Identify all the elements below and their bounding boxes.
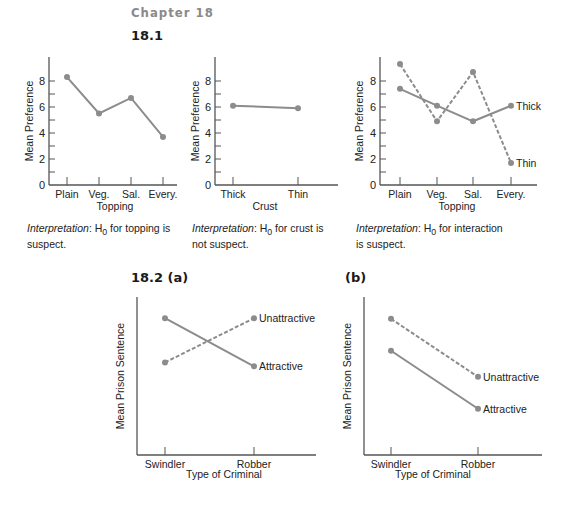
y-axis-label: Mean Prison Sentence — [114, 323, 126, 429]
series-label: Thick — [516, 100, 542, 112]
y-tick-label: 8 — [205, 75, 211, 87]
y-tick-label: 0 — [370, 179, 376, 191]
x-tick-label: Thick — [220, 188, 246, 200]
y-tick-label: 4 — [205, 127, 211, 139]
data-point — [475, 374, 481, 380]
series-label: Unattractive — [259, 312, 315, 324]
x-tick-label: Plain — [55, 188, 79, 200]
y-tick-label: 6 — [205, 101, 211, 113]
x-tick-label: Sal. — [122, 188, 140, 200]
data-point — [388, 316, 394, 322]
y-tick-label: 0 — [205, 179, 211, 191]
x-tick-label: Sal. — [464, 188, 482, 200]
y-axis-label: Mean Prison Sentence — [341, 323, 353, 429]
y-tick-label: 2 — [205, 153, 211, 165]
series-label: Unattractive — [483, 371, 539, 383]
data-point — [251, 363, 257, 369]
chart-18-2b: SwindlerRobberType of CriminalMean Priso… — [341, 297, 542, 480]
series-line — [67, 77, 163, 137]
y-tick-label: 6 — [39, 101, 45, 113]
series-line — [400, 89, 511, 122]
chart-crust: 02468ThickThinCrustMean Preference — [189, 57, 338, 212]
data-point — [508, 103, 514, 109]
y-tick-label: 2 — [370, 153, 376, 165]
data-point — [475, 406, 481, 412]
data-point — [64, 74, 70, 80]
x-tick-label: Swindler — [145, 458, 186, 470]
series-line — [391, 351, 478, 409]
x-tick-label: Thin — [288, 188, 309, 200]
data-point — [508, 160, 514, 166]
data-point — [96, 111, 102, 117]
data-point — [388, 348, 394, 354]
x-tick-label: Plain — [388, 188, 412, 200]
series-line — [233, 106, 298, 109]
data-point — [251, 315, 257, 321]
data-point — [160, 134, 166, 140]
x-tick-label: Veg. — [88, 188, 109, 200]
charts-canvas: 02468PlainVeg.Sal.Every.ToppingMean Pref… — [0, 0, 573, 512]
x-axis-label: Crust — [252, 200, 277, 212]
y-tick-label: 8 — [39, 75, 45, 87]
y-tick-label: 4 — [370, 127, 376, 139]
y-axis-label: Mean Preference — [353, 81, 365, 162]
x-axis-label: Type of Criminal — [395, 468, 471, 480]
x-tick-label: Every. — [497, 188, 526, 200]
series-label: Attractive — [483, 403, 527, 415]
y-tick-label: 4 — [39, 127, 45, 139]
chart-topping: 02468PlainVeg.Sal.Every.ToppingMean Pref… — [23, 57, 177, 212]
x-tick-label: Every. — [149, 188, 178, 200]
data-point — [434, 118, 440, 124]
y-tick-label: 8 — [370, 75, 376, 87]
data-point — [295, 105, 301, 111]
data-point — [434, 103, 440, 109]
x-axis-label: Topping — [97, 200, 134, 212]
y-tick-label: 6 — [370, 101, 376, 113]
data-point — [128, 95, 134, 101]
data-point — [162, 315, 168, 321]
chart-18-2a: SwindlerRobberType of CriminalMean Priso… — [114, 297, 316, 480]
x-tick-label: Veg. — [426, 188, 447, 200]
series-line — [391, 319, 478, 377]
series-label: Attractive — [259, 360, 303, 372]
y-tick-label: 2 — [39, 153, 45, 165]
data-point — [470, 118, 476, 124]
y-axis-label: Mean Preference — [23, 81, 35, 162]
data-point — [397, 61, 403, 67]
data-point — [230, 103, 236, 109]
data-point — [162, 359, 168, 365]
y-axis-label: Mean Preference — [189, 81, 201, 162]
x-axis-label: Topping — [439, 200, 476, 212]
x-axis-label: Type of Criminal — [186, 468, 262, 480]
y-tick-label: 0 — [39, 179, 45, 191]
data-point — [397, 86, 403, 92]
chart-interaction: 02468PlainVeg.Sal.Every.ToppingMean Pref… — [353, 57, 542, 212]
data-point — [470, 69, 476, 75]
series-label: Thin — [516, 157, 537, 169]
